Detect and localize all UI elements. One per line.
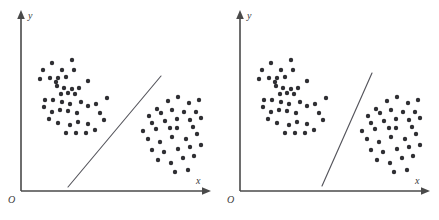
scatter-point bbox=[281, 86, 285, 90]
scatter-point bbox=[377, 140, 381, 144]
scatter-point bbox=[74, 131, 78, 135]
scatter-point bbox=[418, 143, 422, 147]
scatter-point bbox=[146, 137, 150, 141]
scatter-point bbox=[147, 114, 151, 118]
separating-line bbox=[322, 73, 372, 186]
decision-boundary-line bbox=[68, 76, 161, 187]
scatter-point bbox=[373, 127, 377, 131]
scatter-point bbox=[389, 108, 393, 112]
scatter-point bbox=[365, 137, 369, 141]
scatter-point bbox=[269, 61, 273, 65]
scatter-point bbox=[295, 120, 299, 124]
scatter-point bbox=[381, 150, 385, 154]
scatter-points-cluster-b bbox=[141, 95, 203, 174]
scatter-point bbox=[66, 109, 70, 113]
scatter-point bbox=[405, 168, 409, 172]
scatter-point bbox=[407, 145, 411, 149]
scatter-point bbox=[70, 87, 74, 91]
scatter-point bbox=[73, 92, 77, 96]
scatter-point bbox=[154, 127, 158, 131]
scatter-point bbox=[285, 91, 289, 95]
scatter-point bbox=[181, 156, 185, 160]
scatter-point bbox=[298, 100, 302, 104]
scatter-point bbox=[48, 76, 52, 80]
scatter-point bbox=[403, 137, 407, 141]
scatter-point bbox=[158, 140, 162, 144]
scatter-point bbox=[86, 104, 90, 108]
scatter-points-cluster-a bbox=[257, 58, 328, 135]
scatter-point bbox=[93, 128, 97, 132]
scatter-point bbox=[188, 145, 192, 149]
scatter-point bbox=[55, 84, 59, 88]
scatter-point bbox=[86, 122, 90, 126]
scatter-point bbox=[50, 110, 54, 114]
scatter-point bbox=[360, 129, 364, 133]
scatter-point bbox=[105, 96, 109, 100]
scatter-point bbox=[194, 110, 198, 114]
scatter-point bbox=[418, 116, 422, 120]
scatter-point bbox=[289, 87, 293, 91]
scatter-point bbox=[191, 125, 195, 129]
scatter-point bbox=[56, 76, 60, 80]
scatter-point bbox=[400, 156, 404, 160]
scatter-point bbox=[269, 110, 273, 114]
scatter-point bbox=[406, 101, 410, 105]
scatter-point bbox=[289, 58, 293, 62]
scatter-point bbox=[291, 68, 295, 72]
scatter-point bbox=[401, 110, 405, 114]
scatter-point bbox=[150, 148, 154, 152]
scatter-point bbox=[374, 107, 378, 111]
scatter-point bbox=[313, 102, 317, 106]
scatter-point bbox=[176, 95, 180, 99]
scatter-point bbox=[277, 108, 281, 112]
scatter-point bbox=[283, 75, 287, 79]
scatter-point bbox=[387, 126, 391, 130]
scatter-point bbox=[47, 117, 51, 121]
scatter-point bbox=[141, 129, 145, 133]
scatter-point bbox=[279, 68, 283, 72]
scatter-point bbox=[54, 80, 58, 84]
scatter-point bbox=[266, 117, 270, 121]
x-axis-arrow-icon bbox=[421, 187, 430, 195]
scatter-point bbox=[166, 99, 170, 103]
y-axis-label: y bbox=[27, 10, 33, 21]
scatter-point bbox=[41, 68, 45, 72]
scatter-point bbox=[66, 91, 70, 95]
scatter-point bbox=[197, 98, 201, 102]
origin-label: O bbox=[8, 194, 15, 205]
scatter-point bbox=[70, 58, 74, 62]
scatter-point bbox=[317, 111, 321, 115]
y-axis-label: y bbox=[246, 10, 252, 21]
scatter-point bbox=[273, 80, 277, 84]
scatter-point bbox=[188, 118, 192, 122]
scatter-point bbox=[278, 92, 282, 96]
scatter-point bbox=[42, 105, 46, 109]
scatter-point bbox=[159, 111, 163, 115]
scatter-point bbox=[43, 98, 47, 102]
scatter-point bbox=[60, 100, 64, 104]
origin-label: O bbox=[227, 194, 234, 205]
scatter-point bbox=[369, 148, 373, 152]
scatter-point bbox=[170, 108, 174, 112]
scatter-point bbox=[283, 131, 287, 135]
scatter-point bbox=[261, 105, 265, 109]
x-axis bbox=[21, 187, 211, 195]
scatter-point bbox=[305, 104, 309, 108]
scatter-points-cluster-b bbox=[360, 95, 422, 174]
scatter-point bbox=[369, 121, 373, 125]
scatter-point bbox=[170, 135, 174, 139]
scatter-point bbox=[394, 117, 398, 121]
scatter-point bbox=[413, 110, 417, 114]
scatter-point bbox=[173, 170, 177, 174]
y-axis bbox=[17, 10, 25, 191]
scatter-point bbox=[56, 121, 60, 125]
scatter-point bbox=[186, 168, 190, 172]
scatter-point bbox=[287, 102, 291, 106]
scatter-point bbox=[86, 79, 90, 83]
scatter-point bbox=[182, 110, 186, 114]
scatter-point bbox=[51, 98, 55, 102]
scatter-point bbox=[77, 86, 81, 90]
scatter-point bbox=[38, 77, 42, 81]
scatter-point bbox=[296, 86, 300, 90]
scatter-point bbox=[75, 111, 79, 115]
